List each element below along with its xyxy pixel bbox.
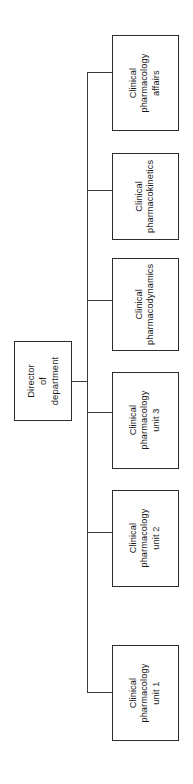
connector-branch-5 <box>87 532 113 533</box>
node-clinical-pharmacology-unit-2[interactable]: Clinical pharmacology unit 2 <box>112 490 179 587</box>
node-clinical-pharmacology-unit-3[interactable]: Clinical pharmacology unit 3 <box>112 372 179 469</box>
org-chart-canvas: Director of department Clinical pharmaco… <box>0 0 193 784</box>
node-label-clinical-pharmacology-unit-2: Clinical pharmacology unit 2 <box>128 509 162 568</box>
node-clinical-pharmacology-affairs[interactable]: Clinical pharmacology affairs <box>112 35 179 131</box>
node-clinical-pharmacodynamics[interactable]: Clinical pharmacodynamics <box>112 258 179 351</box>
connector-branch-1 <box>87 72 113 73</box>
connector-branch-3 <box>87 300 113 301</box>
node-label-clinical-pharmacology-unit-1: Clinical pharmacology unit 1 <box>128 664 162 723</box>
connector-branch-4 <box>87 412 113 413</box>
node-label-clinical-pharmacokinetics: Clinical pharmacokinetics <box>134 160 157 233</box>
node-director-of-department[interactable]: Director of department <box>14 341 72 421</box>
node-label-director: Director of department <box>25 357 61 405</box>
connector-root-to-trunk <box>71 381 88 382</box>
connector-branch-6 <box>87 692 113 693</box>
node-label-clinical-pharmacodynamics: Clinical pharmacodynamics <box>134 264 157 345</box>
node-label-clinical-pharmacology-affairs: Clinical pharmacology affairs <box>128 54 162 113</box>
node-label-clinical-pharmacology-unit-3: Clinical pharmacology unit 3 <box>128 391 162 450</box>
node-clinical-pharmacokinetics[interactable]: Clinical pharmacokinetics <box>112 153 179 240</box>
connector-trunk-vertical <box>87 72 88 693</box>
connector-branch-2 <box>87 190 113 191</box>
node-clinical-pharmacology-unit-1[interactable]: Clinical pharmacology unit 1 <box>112 645 179 741</box>
